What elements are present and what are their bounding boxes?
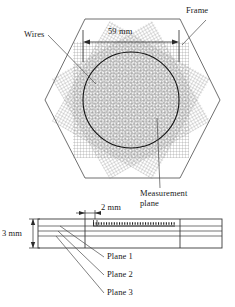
measurement-plane-band	[93, 220, 175, 226]
measurement-plane-label-line1: Measurement	[140, 188, 187, 198]
frame-label: Frame	[186, 6, 208, 16]
spacing-dimension	[76, 210, 101, 219]
measurement-plane-label: Measurement plane	[140, 188, 202, 208]
plane-3-leader	[56, 236, 104, 293]
plane-2-leader	[58, 231, 104, 275]
spacing-label: 2 mm	[101, 203, 121, 213]
plane-1-label: Plane 1	[107, 252, 133, 262]
wire-mesh-frame-diagram: Frame Wires 59 mm Measurement plane 2 mm…	[0, 0, 235, 307]
thickness-label: 3 mm	[2, 229, 22, 239]
diameter-label: 59 mm	[108, 27, 132, 37]
plane-2-label: Plane 2	[107, 270, 133, 280]
wire-mesh-layers	[52, 21, 210, 179]
frame-leader	[182, 20, 206, 45]
measurement-plane-label-line2: plane	[140, 198, 159, 208]
plane-3-label: Plane 3	[107, 288, 133, 298]
wires-label: Wires	[24, 30, 44, 40]
